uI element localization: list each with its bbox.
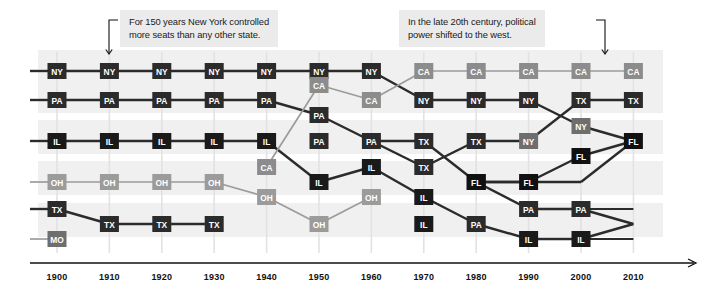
row-band <box>38 50 663 84</box>
node-PA-1950[interactable]: PA <box>310 133 329 149</box>
node-TX-1970[interactable]: TX <box>414 133 433 149</box>
node-OH-1910[interactable]: OH <box>100 174 119 190</box>
node-CA-1940[interactable]: CA <box>257 159 276 175</box>
annotation-leader <box>596 20 605 53</box>
node-label: IL <box>420 193 427 203</box>
node-PA-1910[interactable]: PA <box>100 92 119 108</box>
node-IL-1950[interactable]: IL <box>310 174 329 190</box>
node-FL-1980[interactable]: FL <box>467 174 486 190</box>
node-PA-1980[interactable]: PA <box>467 216 486 232</box>
x-tick-1920: 1920 <box>151 272 172 282</box>
node-label: CA <box>470 67 482 77</box>
node-IL-2000[interactable]: IL <box>572 231 591 247</box>
node-NY-1990[interactable]: NY <box>519 133 538 149</box>
node-label: NY <box>313 67 325 77</box>
node-NY-1930[interactable]: NY <box>205 63 224 79</box>
node-label: NY <box>51 67 63 77</box>
node-NY-1950[interactable]: NY <box>310 63 329 79</box>
node-OH-1900[interactable]: OH <box>48 174 67 190</box>
x-tick-2010: 2010 <box>623 272 644 282</box>
node-label: CA <box>627 67 639 77</box>
node-label: PA <box>156 96 167 106</box>
node-NY-1910[interactable]: NY <box>100 63 119 79</box>
node-label: FL <box>471 178 481 188</box>
node-PA-1920[interactable]: PA <box>152 92 171 108</box>
node-label: OH <box>51 178 64 188</box>
node-NY-1990[interactable]: NY <box>519 92 538 108</box>
x-tick-1950: 1950 <box>309 272 330 282</box>
node-PA-1950[interactable]: PA <box>310 107 329 123</box>
node-NY-1940[interactable]: NY <box>257 63 276 79</box>
node-NY-1920[interactable]: NY <box>152 63 171 79</box>
node-OH-1960[interactable]: OH <box>362 189 381 205</box>
node-label: TX <box>418 163 429 173</box>
node-NY-1980[interactable]: NY <box>467 92 486 108</box>
node-OH-1940[interactable]: OH <box>257 189 276 205</box>
node-IL-1930[interactable]: IL <box>205 133 224 149</box>
node-label: CA <box>523 67 535 77</box>
node-TX-1910[interactable]: TX <box>100 216 119 232</box>
node-label: TX <box>52 205 63 215</box>
node-PA-1930[interactable]: PA <box>205 92 224 108</box>
node-NY-1900[interactable]: NY <box>48 63 67 79</box>
node-OH-1930[interactable]: OH <box>205 174 224 190</box>
node-label: OH <box>260 193 273 203</box>
node-CA-1950[interactable]: CA <box>310 77 329 93</box>
node-IL-1970[interactable]: IL <box>414 216 433 232</box>
node-label: TX <box>471 137 482 147</box>
x-tick-1990: 1990 <box>518 272 539 282</box>
node-TX-1930[interactable]: TX <box>205 216 224 232</box>
node-NY-1960[interactable]: NY <box>362 63 381 79</box>
node-CA-1970[interactable]: CA <box>414 63 433 79</box>
node-PA-1960[interactable]: PA <box>362 133 381 149</box>
node-label: PA <box>313 111 324 121</box>
node-label: PA <box>471 220 482 230</box>
node-TX-1900[interactable]: TX <box>48 201 67 217</box>
node-IL-1940[interactable]: IL <box>257 133 276 149</box>
node-OH-1920[interactable]: OH <box>152 174 171 190</box>
node-IL-1910[interactable]: IL <box>100 133 119 149</box>
node-IL-1960[interactable]: IL <box>362 159 381 175</box>
node-TX-1980[interactable]: TX <box>467 133 486 149</box>
node-NY-2000[interactable]: NY <box>572 118 591 134</box>
node-MO-1900[interactable]: MO <box>48 231 67 247</box>
node-FL-2010[interactable]: FL <box>624 133 643 149</box>
node-label: NY <box>523 137 535 147</box>
node-label: IL <box>525 235 532 245</box>
node-label: OH <box>156 178 169 188</box>
node-label: IL <box>158 137 165 147</box>
node-IL-1970[interactable]: IL <box>414 189 433 205</box>
node-OH-1950[interactable]: OH <box>310 216 329 232</box>
node-TX-1920[interactable]: TX <box>152 216 171 232</box>
chart-canvas: NYNYNYNYNYNYNYCACACACACAPAPAPAPAPACAPACA… <box>0 0 706 295</box>
node-TX-2010[interactable]: TX <box>624 92 643 108</box>
node-FL-2000[interactable]: FL <box>572 148 591 164</box>
node-PA-2000[interactable]: PA <box>572 201 591 217</box>
annotation-new-york: For 150 years New York controlled more s… <box>120 10 278 47</box>
node-CA-1990[interactable]: CA <box>519 63 538 79</box>
node-label: FL <box>576 152 586 162</box>
node-TX-2000[interactable]: TX <box>572 92 591 108</box>
node-IL-1990[interactable]: IL <box>519 231 538 247</box>
node-label: IL <box>210 137 217 147</box>
node-PA-1990[interactable]: PA <box>519 201 538 217</box>
node-NY-1970[interactable]: NY <box>414 92 433 108</box>
node-label: PA <box>523 205 534 215</box>
node-FL-1990[interactable]: FL <box>519 174 538 190</box>
node-CA-2000[interactable]: CA <box>572 63 591 79</box>
node-label: PA <box>575 205 586 215</box>
node-label: CA <box>313 81 325 91</box>
annotation-west-shift: In the late 20th century, political powe… <box>399 10 545 47</box>
node-label: NY <box>418 96 430 106</box>
node-TX-1970[interactable]: TX <box>414 159 433 175</box>
node-CA-1980[interactable]: CA <box>467 63 486 79</box>
node-PA-1900[interactable]: PA <box>48 92 67 108</box>
node-IL-1920[interactable]: IL <box>152 133 171 149</box>
node-CA-1960[interactable]: CA <box>362 92 381 108</box>
node-label: NY <box>261 67 273 77</box>
node-label: PA <box>209 96 220 106</box>
node-CA-2010[interactable]: CA <box>624 63 643 79</box>
node-PA-1940[interactable]: PA <box>257 92 276 108</box>
node-IL-1900[interactable]: IL <box>48 133 67 149</box>
node-label: PA <box>104 96 115 106</box>
